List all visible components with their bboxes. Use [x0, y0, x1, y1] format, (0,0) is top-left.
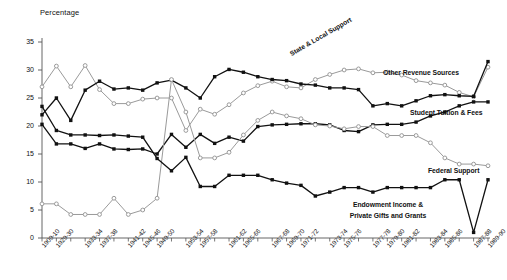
series-label-other-revenue: Other Revenue Sources — [383, 69, 459, 76]
series-label-student-tuition: Student Tuition & Fees — [410, 109, 482, 116]
series-label-federal-support: Federal Support — [428, 167, 479, 174]
series-label-endowment-line2: Private Gifts and Grants — [333, 212, 443, 219]
series-label-endowment-line1: Endowment Income & — [333, 201, 443, 208]
